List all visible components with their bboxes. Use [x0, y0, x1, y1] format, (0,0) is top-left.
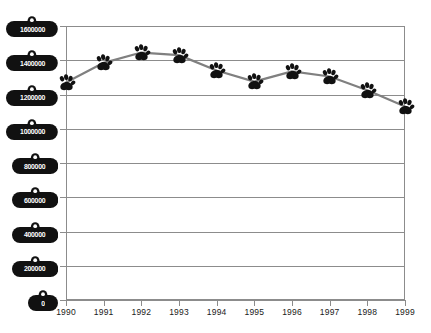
y-axis-tick-label-tag: 1400000: [6, 49, 58, 71]
x-axis-tick: [179, 300, 180, 306]
y-axis-tick-label-text: 200000: [24, 265, 45, 277]
data-point-paw-icon: [207, 61, 226, 80]
y-axis-tick-label-text: 800000: [24, 163, 45, 175]
x-axis-tick: [367, 300, 368, 306]
y-axis-tick-label-tag: 800000: [12, 152, 58, 174]
x-axis-tick-label: 1996: [282, 307, 302, 317]
y-axis-tick-label-text: 1200000: [20, 94, 45, 106]
y-axis-tick-label-tag: 0: [28, 289, 58, 311]
data-point-paw-icon: [320, 67, 339, 86]
x-axis-tick-label: 1993: [169, 307, 189, 317]
y-axis-tick-label-tag: 200000: [12, 255, 58, 277]
plot-area: [66, 26, 405, 300]
x-axis-tick-label: 1990: [56, 307, 76, 317]
data-point-paw-icon: [245, 72, 264, 91]
y-axis-tick-label-tag: 600000: [12, 186, 58, 208]
x-axis-tick: [66, 300, 67, 306]
x-axis-tick-label: 1998: [357, 307, 377, 317]
x-axis-tick-label: 1999: [395, 307, 415, 317]
data-point-paw-icon: [57, 73, 76, 92]
y-axis-tick-label-text: 1000000: [20, 128, 45, 140]
data-point-paw-icon: [396, 97, 415, 116]
y-axis-tick-label-tag: 1600000: [6, 15, 58, 37]
data-point-paw-icon: [170, 46, 189, 65]
data-point-paw-icon: [358, 81, 377, 100]
gridline: [66, 300, 405, 301]
x-axis-tick-label: 1997: [320, 307, 340, 317]
x-axis-tick: [405, 300, 406, 306]
y-axis-tick-label-text: 0: [41, 300, 45, 312]
y-axis-tick-label-text: 400000: [24, 231, 45, 243]
series-line: [66, 26, 405, 300]
y-axis-tick-label-text: 1600000: [20, 26, 45, 38]
x-axis-tick-label: 1992: [131, 307, 151, 317]
y-axis-tick-label-tag: 1000000: [6, 118, 58, 140]
x-axis-tick: [292, 300, 293, 306]
chart-container: 0200000400000600000800000100000012000001…: [0, 0, 431, 333]
x-axis-tick-label: 1991: [94, 307, 114, 317]
x-axis-tick-label: 1995: [244, 307, 264, 317]
x-axis-tick: [141, 300, 142, 306]
x-axis-tick: [104, 300, 105, 306]
data-point-paw-icon: [132, 43, 151, 62]
x-axis-tick: [254, 300, 255, 306]
y-axis-tick-label-tag: 400000: [12, 221, 58, 243]
y-axis-tick-label-text: 1400000: [20, 60, 45, 72]
x-axis-tick: [217, 300, 218, 306]
x-axis-tick: [330, 300, 331, 306]
data-point-paw-icon: [283, 62, 302, 81]
data-point-paw-icon: [94, 53, 113, 72]
y-axis-tick-label-text: 600000: [24, 197, 45, 209]
x-axis-tick-label: 1994: [207, 307, 227, 317]
y-axis-tick-label-tag: 1200000: [6, 84, 58, 106]
